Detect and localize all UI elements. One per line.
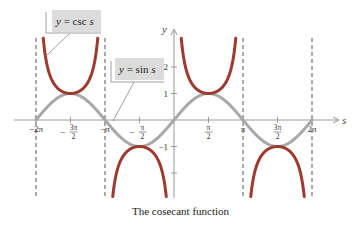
cosecant-branch: [251, 147, 304, 197]
x-tick-fraction: 3π2: [274, 123, 282, 141]
sin-leader-line: [113, 82, 134, 121]
csc-leader-line: [47, 33, 70, 55]
cosecant-chart: s y −2π−3π2−π−π2π2π3π22π21−1 y = csc s y…: [0, 0, 361, 226]
y-tick-label: −1: [158, 142, 168, 152]
y-axis-label: y: [161, 23, 167, 35]
chart-caption: The cosecant function: [0, 205, 361, 217]
sin-label: y = sin s: [118, 63, 155, 75]
svg-text:3π: 3π: [70, 123, 78, 132]
svg-text:π: π: [141, 123, 145, 132]
sin-callout: y = sin s: [111, 58, 164, 121]
y-tick-label: 2: [164, 62, 169, 72]
y-tick-label: 1: [164, 89, 169, 99]
x-tick-label: −2π: [29, 124, 44, 134]
x-axis-label: s: [342, 114, 346, 126]
svg-text:−: −: [129, 127, 134, 137]
csc-callout: y = csc s: [46, 10, 101, 55]
svg-text:2: 2: [72, 132, 76, 141]
cosecant-branch: [43, 38, 98, 93]
svg-text:2: 2: [141, 132, 145, 141]
svg-text:2: 2: [276, 132, 280, 141]
svg-text:−: −: [60, 127, 65, 137]
tick-marks: −2π−3π2−π−π2π2π3π22π21−1: [29, 62, 317, 173]
svg-text:π: π: [207, 123, 211, 132]
x-tick-label: π: [241, 124, 246, 134]
svg-text:3π: 3π: [274, 123, 282, 132]
x-tick-fraction: π2: [205, 123, 213, 141]
cosecant-branch: [113, 147, 166, 197]
x-tick-fraction: −3π2: [60, 123, 78, 141]
svg-text:2: 2: [207, 132, 211, 141]
x-tick-fraction: −π2: [129, 123, 147, 141]
cosecant-branch: [181, 38, 236, 93]
csc-label: y = csc s: [55, 15, 94, 27]
